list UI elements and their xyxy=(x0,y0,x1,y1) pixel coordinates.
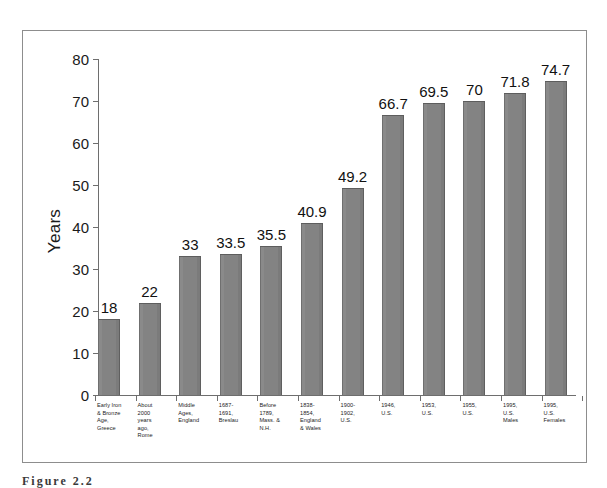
category-label-line: 1995, xyxy=(544,402,584,410)
category-label-line: years xyxy=(138,417,178,425)
y-tick-label: 80 xyxy=(29,52,89,67)
bar xyxy=(463,101,485,395)
category-label: 1687-1691,Breslau xyxy=(219,402,259,425)
category-label-line: 1946, xyxy=(381,402,421,410)
category-label: Early Iron& BronzeAge,Greece xyxy=(97,402,137,432)
category-label-line: 1691, xyxy=(219,410,259,418)
x-tick-mark xyxy=(339,396,340,401)
category-label-line: Before xyxy=(259,402,299,410)
category-label-line: 1838- xyxy=(300,402,340,410)
category-label-line: N.H. xyxy=(259,425,299,433)
x-tick-mark xyxy=(257,396,258,401)
category-label-line: 1854, xyxy=(300,410,340,418)
category-label-line: Rome xyxy=(138,432,178,440)
category-label-line: & Wales xyxy=(300,425,340,433)
y-tick-mark xyxy=(93,185,98,186)
bar xyxy=(179,256,201,395)
y-tick-mark xyxy=(93,59,98,60)
category-label-line: Age, xyxy=(97,417,137,425)
category-label-line: U.S. xyxy=(462,410,502,418)
category-label-line: & Bronze xyxy=(97,410,137,418)
category-label-line: England xyxy=(300,417,340,425)
category-label-line: 1902, xyxy=(341,410,381,418)
bar xyxy=(382,115,404,395)
y-tick-label: 0 xyxy=(29,388,89,403)
y-tick-label: 30 xyxy=(29,262,89,277)
bar xyxy=(301,223,323,395)
category-label: 1995,U.S.Males xyxy=(503,402,543,425)
bar-value-label: 74.7 xyxy=(526,62,586,77)
figure-caption: Figure 2.2 xyxy=(22,474,94,488)
bar-value-label: 49.2 xyxy=(323,169,383,184)
y-tick-mark xyxy=(93,269,98,270)
category-label-line: 2000 xyxy=(138,410,178,418)
category-label-line: Ages, xyxy=(178,410,218,418)
bar xyxy=(98,319,120,395)
x-tick-mark xyxy=(176,396,177,401)
x-tick-mark xyxy=(379,396,380,401)
category-label: 1946,U.S. xyxy=(381,402,421,417)
figure-frame: Years 01020304050607080 18223333.535.540… xyxy=(22,30,587,463)
x-tick-mark xyxy=(95,396,96,401)
x-tick-mark xyxy=(460,396,461,401)
category-label-line: 1687- xyxy=(219,402,259,410)
y-tick-mark xyxy=(93,143,98,144)
category-label-line: 1995, xyxy=(503,402,543,410)
category-label: Before1789,Mass. &N.H. xyxy=(259,402,299,432)
plot-area: Years 01020304050607080 18223333.535.540… xyxy=(23,31,588,464)
x-tick-mark xyxy=(298,396,299,401)
bar-value-label: 22 xyxy=(120,284,180,299)
y-tick-mark xyxy=(93,227,98,228)
category-label-line: 1953, xyxy=(422,402,462,410)
x-tick-mark xyxy=(217,396,218,401)
category-label-line: U.S. xyxy=(381,410,421,418)
x-tick-mark xyxy=(542,396,543,401)
category-label-line: U.S. xyxy=(503,410,543,418)
bar xyxy=(423,103,445,395)
bar-value-label: 40.9 xyxy=(282,204,342,219)
y-tick-label: 50 xyxy=(29,178,89,193)
category-label-line: 1955, xyxy=(462,402,502,410)
category-label: 1900-1902,U.S. xyxy=(341,402,381,425)
y-tick-label: 70 xyxy=(29,94,89,109)
category-label: About2000yearsago,Rome xyxy=(138,402,178,440)
category-label: 1838-1854,England& Wales xyxy=(300,402,340,432)
category-label-line: U.S. xyxy=(422,410,462,418)
bar xyxy=(545,81,567,395)
category-label-line: U.S. xyxy=(341,417,381,425)
x-tick-mark xyxy=(136,396,137,401)
bar xyxy=(139,303,161,395)
category-label-line: Greece xyxy=(97,425,137,433)
x-tick-mark xyxy=(420,396,421,401)
category-label: MiddleAges,England xyxy=(178,402,218,425)
category-label-line: England xyxy=(178,417,218,425)
category-label-line: ago, xyxy=(138,425,178,433)
category-label-line: Males xyxy=(503,417,543,425)
bar xyxy=(504,93,526,395)
category-label-line: Breslau xyxy=(219,417,259,425)
category-label-line: 1789, xyxy=(259,410,299,418)
x-axis-line xyxy=(98,395,576,396)
category-label-line: Females xyxy=(544,417,584,425)
y-tick-mark xyxy=(93,101,98,102)
category-label-line: Middle xyxy=(178,402,218,410)
y-tick-label: 10 xyxy=(29,346,89,361)
category-label-line: U.S. xyxy=(544,410,584,418)
category-label: 1955,U.S. xyxy=(462,402,502,417)
bar xyxy=(342,188,364,395)
bar-value-label: 18 xyxy=(79,300,139,315)
y-tick-label: 60 xyxy=(29,136,89,151)
bar xyxy=(260,246,282,395)
bar xyxy=(220,254,242,395)
category-label: 1953,U.S. xyxy=(422,402,462,417)
category-label: 1995,U.S.Females xyxy=(544,402,584,425)
bar-value-label: 35.5 xyxy=(241,227,301,242)
category-label-line: Early Iron xyxy=(97,402,137,410)
x-tick-mark xyxy=(582,396,583,401)
category-label-line: About xyxy=(138,402,178,410)
x-tick-mark xyxy=(501,396,502,401)
category-label-line: Mass. & xyxy=(259,417,299,425)
category-label-line: 1900- xyxy=(341,402,381,410)
y-tick-label: 40 xyxy=(29,220,89,235)
